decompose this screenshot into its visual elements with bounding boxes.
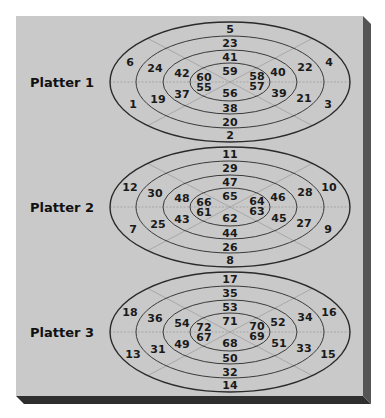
sector-number: 19	[150, 93, 165, 106]
sector-number: 71	[222, 315, 237, 328]
sector-number: 28	[297, 186, 312, 199]
sector-number: 62	[222, 212, 237, 225]
sector-number: 51	[271, 337, 286, 350]
sector-number: 68	[222, 337, 237, 350]
sector-number: 7	[129, 223, 137, 236]
platter-label: Platter 3	[30, 325, 94, 340]
sector-number: 54	[174, 317, 190, 330]
sector-number: 29	[222, 162, 237, 175]
sector-number: 13	[125, 348, 140, 361]
sector-number: 6	[126, 56, 134, 69]
sector-number: 3	[324, 98, 332, 111]
sector-number: 40	[270, 66, 286, 79]
platter-label: Platter 1	[30, 75, 94, 90]
sector-number: 4	[325, 56, 333, 69]
panel-edge-right	[363, 16, 371, 404]
sector-number: 57	[249, 80, 264, 93]
sector-number: 52	[270, 316, 285, 329]
sector-number: 1	[129, 98, 137, 111]
sector-number: 15	[320, 348, 335, 361]
sector-number: 8	[226, 254, 234, 267]
sector-number: 38	[222, 102, 237, 115]
sector-number: 17	[222, 273, 237, 286]
sector-number: 61	[196, 206, 211, 219]
sector-number: 24	[147, 62, 163, 75]
platter-sector-diagram: Platter 1 5 6 4 1 3 2 23 24 22 19 21 20 …	[0, 0, 385, 418]
panel-edge-bottom	[16, 396, 371, 404]
sector-number: 27	[296, 217, 311, 230]
sector-number: 42	[174, 67, 189, 80]
sector-number: 11	[222, 148, 237, 161]
sector-number: 37	[174, 88, 189, 101]
sector-number: 30	[147, 187, 163, 200]
sector-number: 69	[249, 330, 264, 343]
sector-number: 46	[270, 191, 286, 204]
platter-label: Platter 2	[30, 200, 94, 215]
sector-number: 35	[222, 287, 237, 300]
sector-number: 32	[222, 366, 237, 379]
sector-number: 49	[174, 338, 189, 351]
sector-number: 47	[222, 176, 237, 189]
sector-number: 44	[222, 227, 238, 240]
sector-number: 39	[271, 87, 286, 100]
sector-number: 23	[222, 37, 237, 50]
sector-number: 67	[196, 331, 211, 344]
sector-number: 56	[222, 87, 238, 100]
sector-number: 25	[150, 218, 165, 231]
sector-number: 65	[222, 190, 237, 203]
sector-number: 22	[297, 61, 312, 74]
sector-number: 20	[222, 116, 238, 129]
sector-number: 14	[222, 379, 238, 392]
sector-number: 34	[297, 311, 313, 324]
sector-number: 55	[196, 81, 211, 94]
sector-number: 33	[296, 342, 311, 355]
sector-number: 16	[321, 306, 337, 319]
sector-number: 45	[271, 212, 286, 225]
sector-number: 31	[150, 343, 165, 356]
sector-number: 18	[122, 306, 137, 319]
sector-number: 59	[222, 65, 237, 78]
sector-number: 63	[249, 205, 264, 218]
sector-number: 10	[321, 181, 337, 194]
sector-number: 12	[122, 181, 137, 194]
sector-number: 53	[222, 301, 237, 314]
sector-number: 26	[222, 241, 238, 254]
sector-number: 43	[174, 213, 189, 226]
sector-number: 21	[296, 92, 311, 105]
sector-number: 36	[147, 312, 163, 325]
sector-number: 9	[324, 223, 332, 236]
sector-number: 2	[226, 129, 234, 142]
sector-number: 41	[222, 51, 237, 64]
sector-number: 50	[222, 352, 238, 365]
sector-number: 5	[226, 23, 234, 36]
sector-number: 48	[174, 192, 189, 205]
